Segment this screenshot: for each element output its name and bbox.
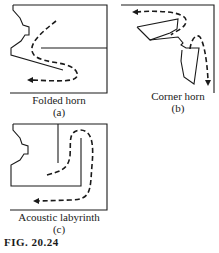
- figure-number: FIG. 20.24: [4, 236, 59, 248]
- caption-c-label: (c): [4, 223, 114, 235]
- caption-a-title: Folded horn: [10, 94, 108, 106]
- caption-a: Folded horn (a): [10, 94, 108, 118]
- corner-horn-diagram: [121, 5, 214, 93]
- corner-horn-airflow-arrow: [136, 11, 186, 35]
- corner-horn-walls: [121, 5, 214, 93]
- caption-a-label: (a): [10, 106, 108, 118]
- caption-b-label: (b): [140, 102, 216, 114]
- folded-horn-arrowhead-icon: [27, 77, 33, 83]
- corner-horn-baffle: [137, 19, 178, 40]
- acoustic-labyrinth-diagram: [10, 124, 107, 210]
- caption-c-title: Acoustic labyrinth: [4, 211, 114, 223]
- caption-b-title: Corner horn: [140, 90, 216, 102]
- corner-horn-arrowhead-left-icon: [132, 9, 138, 15]
- folded-horn-diagram: [10, 5, 107, 93]
- corner-horn-driver-housing: [150, 37, 199, 84]
- labyrinth-arrowhead-icon: [33, 198, 39, 204]
- folded-horn-airflow-arrow: [30, 21, 77, 81]
- caption-b: Corner horn (b): [140, 90, 216, 114]
- labyrinth-airflow-arrow: [37, 130, 93, 201]
- caption-c: Acoustic labyrinth (c): [4, 211, 114, 235]
- corner-horn-arrowhead-down-icon: [205, 80, 211, 86]
- folded-horn-enclosure: [10, 5, 107, 93]
- corner-horn-airflow-arrow-down: [190, 36, 208, 80]
